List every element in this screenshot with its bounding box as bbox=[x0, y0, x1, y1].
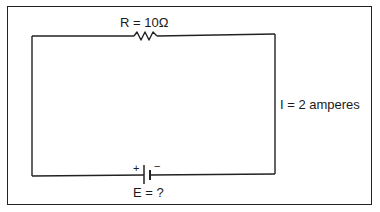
resistor-label: R = 10Ω bbox=[120, 16, 168, 29]
bottom-wire-right bbox=[150, 174, 275, 175]
emf-label: E = ? bbox=[133, 186, 164, 199]
battery-minus-sign: − bbox=[154, 161, 160, 172]
top-wire-right bbox=[157, 34, 275, 36]
current-label: I = 2 amperes bbox=[280, 98, 360, 111]
battery-plus-sign: + bbox=[133, 163, 139, 174]
resistor-icon bbox=[134, 32, 157, 40]
bottom-wire-left bbox=[32, 175, 144, 176]
